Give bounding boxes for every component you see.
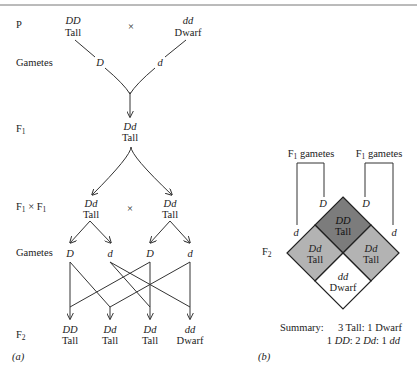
f1-gamete: d bbox=[187, 248, 192, 259]
diagram-lines bbox=[0, 0, 417, 370]
cell-bottom-genotype: dd bbox=[338, 271, 349, 282]
monohybrid-cross-figure: P Gametes F1 F1 × F1 Gametes F2 DD Tall … bbox=[0, 0, 417, 370]
panel-a-caption: (a) bbox=[12, 351, 24, 362]
f2-phenotype: Tall bbox=[102, 335, 118, 346]
bracket-right-label: F1 gametes bbox=[356, 148, 403, 162]
f1-gamete: d bbox=[107, 248, 112, 259]
f1-cross-left-genotype: Dd bbox=[85, 198, 98, 209]
f1-cross-left-phenotype: Tall bbox=[83, 209, 99, 220]
f1-cross-symbol: × bbox=[127, 203, 133, 214]
f1-genotype: Dd bbox=[124, 121, 137, 132]
cell-right-genotype: Dd bbox=[365, 243, 378, 254]
row-label-f2: F2 bbox=[16, 329, 26, 343]
bracket-left-outer-gamete: d bbox=[293, 227, 298, 238]
f2-genotype: Dd bbox=[144, 324, 157, 335]
parent-right-phenotype: Dwarf bbox=[175, 27, 202, 38]
summary-genotype-ratio: 1 DD: 2 Dd: 1 dd bbox=[327, 335, 400, 346]
cell-right-phenotype: Tall bbox=[363, 254, 379, 265]
parent-gamete-D: D bbox=[96, 57, 104, 68]
f2-phenotype: Tall bbox=[142, 335, 158, 346]
bracket-right-inner-gamete: D bbox=[362, 198, 370, 209]
panel-b-caption: (b) bbox=[258, 351, 270, 362]
f2-genotype: DD bbox=[62, 324, 77, 335]
cross-symbol: × bbox=[128, 21, 134, 32]
summary-phenotype-ratio: 3 Tall: 1 Dwarf bbox=[338, 322, 402, 333]
parent-left-genotype: DD bbox=[65, 15, 80, 26]
cell-top-phenotype: Tall bbox=[335, 226, 351, 237]
row-label-gametes-2: Gametes bbox=[16, 247, 53, 258]
f1-gamete: D bbox=[146, 248, 154, 259]
row-label-f1: F1 bbox=[16, 123, 26, 137]
parent-left-phenotype: Tall bbox=[65, 27, 81, 38]
cell-top-genotype: DD bbox=[335, 215, 350, 226]
f2-genotype: dd bbox=[185, 324, 196, 335]
punnett-f2-label: F2 bbox=[262, 246, 272, 260]
row-label-f1-cross: F1 × F1 bbox=[16, 201, 46, 215]
f1-gamete: D bbox=[66, 248, 74, 259]
bracket-left-label: F1 gametes bbox=[288, 148, 335, 162]
f1-cross-right-phenotype: Tall bbox=[162, 209, 178, 220]
f1-cross-right-genotype: Dd bbox=[164, 198, 177, 209]
f1-phenotype: Tall bbox=[122, 132, 138, 143]
f2-phenotype: Dwarf bbox=[177, 335, 204, 346]
parent-right-genotype: dd bbox=[183, 15, 194, 26]
cell-left-genotype: Dd bbox=[309, 243, 322, 254]
row-label-gametes: Gametes bbox=[16, 57, 53, 68]
parent-gamete-d: d bbox=[157, 57, 162, 68]
row-label-p: P bbox=[16, 19, 22, 30]
f2-phenotype: Tall bbox=[62, 335, 78, 346]
bracket-right-outer-gamete: d bbox=[391, 227, 396, 238]
cell-bottom-phenotype: Dwarf bbox=[330, 282, 357, 293]
f2-genotype: Dd bbox=[104, 324, 117, 335]
bracket-left-inner-gamete: D bbox=[319, 198, 327, 209]
summary-label: Summary: bbox=[280, 322, 324, 333]
cell-left-phenotype: Tall bbox=[307, 254, 323, 265]
